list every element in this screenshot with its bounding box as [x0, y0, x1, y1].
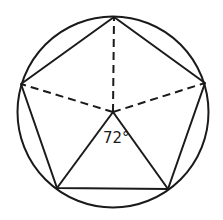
solid-radius-bottom-left: [57, 112, 113, 188]
pentagon-diagram: 72°: [0, 0, 223, 220]
dashed-radius-right: [113, 83, 205, 112]
dashed-radius-top: [113, 17, 114, 112]
dashed-radius-left: [21, 84, 113, 112]
angle-label: 72°: [103, 129, 130, 147]
solid-radius-bottom-right: [113, 112, 168, 189]
